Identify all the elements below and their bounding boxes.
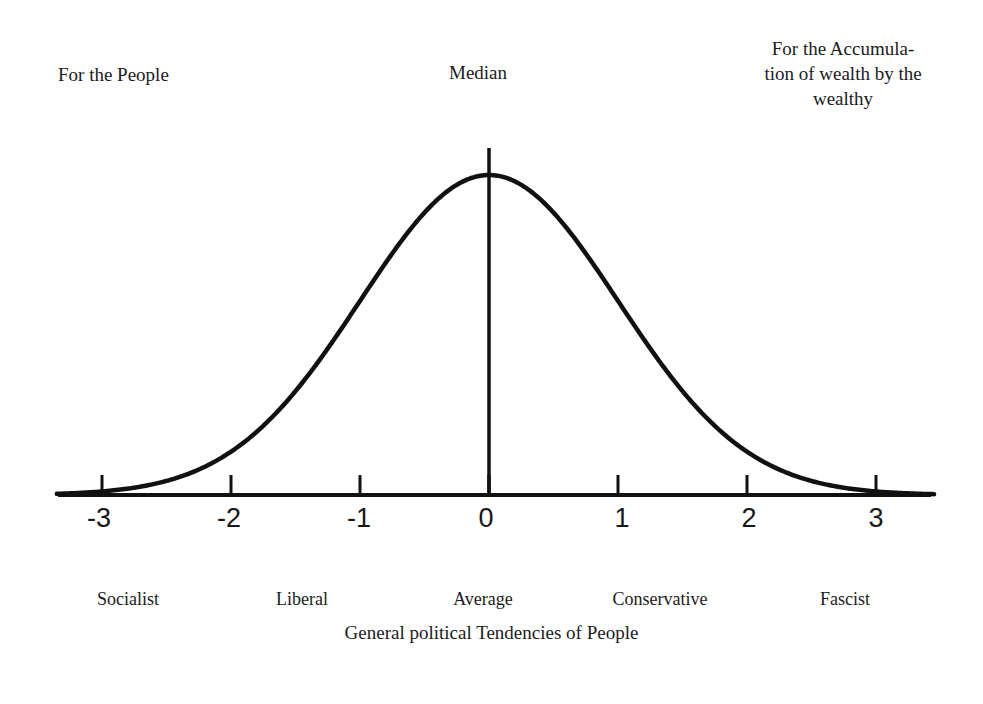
x-tick-label--3: -3 [64, 503, 134, 534]
normal-distribution-curve [57, 175, 934, 494]
x-tick-label-0: 0 [451, 503, 521, 534]
category-label-conservative: Conservative [560, 589, 760, 610]
x-tick-label-1: 1 [587, 503, 657, 534]
chart-caption: General political Tendencies of People [0, 622, 983, 644]
category-label-average: Average [383, 589, 583, 610]
x-tick-label--1: -1 [324, 503, 394, 534]
x-tick-label--2: -2 [194, 503, 264, 534]
chart-canvas: For the People Median For the Accumula- … [0, 0, 983, 704]
x-tick-label-2: 2 [714, 503, 784, 534]
category-label-socialist: Socialist [28, 589, 228, 610]
x-tick-label-3: 3 [841, 503, 911, 534]
category-label-liberal: Liberal [202, 589, 402, 610]
category-label-fascist: Fascist [745, 589, 945, 610]
